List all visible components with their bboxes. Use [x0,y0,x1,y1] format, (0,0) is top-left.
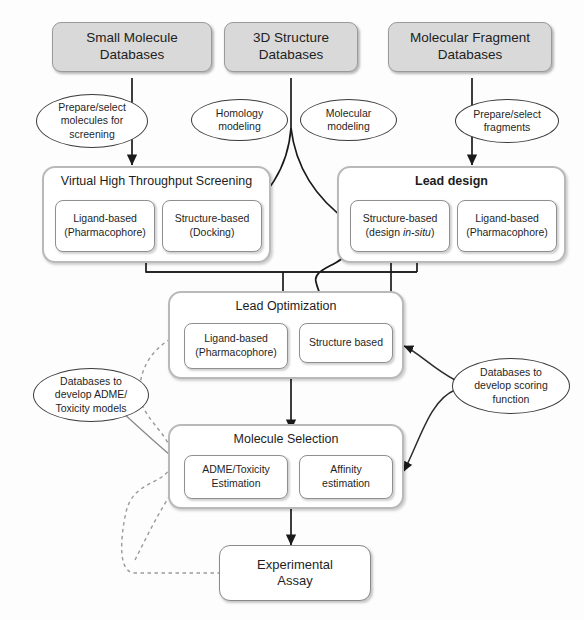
annotation-prepare-fragments-line2: fragments [484,121,531,134]
method-affinity-estimation-line2: estimation [322,477,370,491]
method-vhts-structure-based[interactable]: Structure-based (Docking) [162,200,262,252]
stage-lead-optimization-title: Lead Optimization [170,293,402,315]
database-molecular-fragment[interactable]: Molecular Fragment Databases [388,22,552,72]
database-3d-structure-line2: Databases [259,47,324,64]
annotation-molecular-modeling-line2: modeling [327,120,370,133]
method-adme-toxicity-estimation-line2: Estimation [211,477,260,491]
terminal-experimental-assay-line1: Experimental [257,557,333,573]
database-molecular-fragment-line1: Molecular Fragment [410,30,530,47]
method-vhts-structure-based-line2: (Docking) [190,226,235,240]
annotation-scoring-databases-line3: function [493,393,530,406]
annotation-molecular-modeling-line1: Molecular [326,107,372,120]
annotation-prepare-molecules[interactable]: Prepare/select molecules for screening [36,94,148,148]
method-leadopt-structure-based-line1: Structure based [309,336,383,350]
database-molecular-fragment-line2: Databases [438,47,503,64]
method-affinity-estimation[interactable]: Affinity estimation [299,455,393,499]
stage-virtual-high-throughput-screening[interactable]: Virtual High Throughput Screening Ligand… [42,166,271,263]
method-leaddesign-structure-based[interactable]: Structure-based (design in-situ) [350,200,450,252]
annotation-adme-databases[interactable]: Databases to develop ADME/ Toxicity mode… [33,368,149,422]
method-affinity-estimation-line1: Affinity [330,463,361,477]
annotation-prepare-molecules-line2: molecules for [61,114,123,127]
terminal-experimental-assay[interactable]: Experimental Assay [219,545,371,601]
database-3d-structure[interactable]: 3D Structure Databases [224,22,358,72]
database-small-molecule-line2: Databases [100,47,165,64]
method-leaddesign-structure-based-line2: (design in-situ) [366,226,435,240]
annotation-scoring-databases[interactable]: Databases to develop scoring function [452,358,570,414]
stage-vhts-title: Virtual High Throughput Screening [44,168,269,190]
method-leadopt-ligand-based-line1: Ligand-based [204,332,268,346]
database-small-molecule-line1: Small Molecule [86,30,178,47]
annotation-prepare-fragments[interactable]: Prepare/select fragments [455,99,559,143]
method-leadopt-ligand-based-line2: (Pharmacophore) [195,346,277,360]
annotation-homology-modeling-line2: modeling [218,120,261,133]
annotation-adme-databases-line1: Databases to [60,375,122,388]
database-small-molecule[interactable]: Small Molecule Databases [52,22,212,72]
method-vhts-ligand-based[interactable]: Ligand-based (Pharmacophore) [55,200,155,252]
method-leadopt-ligand-based[interactable]: Ligand-based (Pharmacophore) [184,323,288,369]
stage-lead-design-title: Lead design [339,168,564,190]
annotation-scoring-databases-line1: Databases to [480,366,542,379]
method-vhts-ligand-based-line2: (Pharmacophore) [64,226,146,240]
annotation-homology-modeling[interactable]: Homology modeling [191,99,288,141]
annotation-homology-modeling-line1: Homology [216,107,263,120]
terminal-experimental-assay-line2: Assay [277,573,312,589]
annotation-prepare-molecules-line3: screening [69,128,115,141]
method-vhts-structure-based-line1: Structure-based [175,212,250,226]
database-3d-structure-line1: 3D Structure [253,30,329,47]
annotation-prepare-fragments-line1: Prepare/select [473,108,541,121]
arrow-scoring-to-lo-structure [404,346,455,380]
annotation-scoring-databases-line2: develop scoring [474,379,548,392]
annotation-molecular-modeling[interactable]: Molecular modeling [300,99,397,141]
stage-lead-optimization[interactable]: Lead Optimization Ligand-based (Pharmaco… [168,291,404,379]
method-adme-toxicity-estimation-line1: ADME/Toxicity [202,463,270,477]
annotation-adme-databases-line3: Toxicity models [55,402,126,415]
method-leaddesign-structure-based-line1: Structure-based [363,212,438,226]
method-adme-toxicity-estimation[interactable]: ADME/Toxicity Estimation [184,455,288,499]
method-leadopt-structure-based[interactable]: Structure based [299,323,393,363]
stage-lead-design[interactable]: Lead design Structure-based (design in-s… [337,166,566,263]
stage-molecule-selection[interactable]: Molecule Selection ADME/Toxicity Estimat… [168,424,404,509]
method-leaddesign-ligand-based-line2: (Pharmacophore) [466,226,548,240]
method-leaddesign-ligand-based[interactable]: Ligand-based (Pharmacophore) [457,200,557,252]
method-vhts-ligand-based-line1: Ligand-based [73,212,137,226]
flowchart-canvas: Small Molecule Databases 3D Structure Da… [0,0,584,620]
annotation-prepare-molecules-line1: Prepare/select [58,101,126,114]
method-leaddesign-ligand-based-line1: Ligand-based [475,212,539,226]
stage-molecule-selection-title: Molecule Selection [170,426,402,448]
arrow-scoring-to-affinity [404,390,455,471]
annotation-adme-databases-line2: develop ADME/ [55,388,127,401]
